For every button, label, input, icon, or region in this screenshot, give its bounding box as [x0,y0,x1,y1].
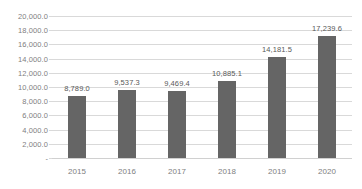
bar-chart: -2,000.04,000.06,000.08,000.010,000.012,… [0,0,362,189]
bar[interactable] [118,90,136,158]
bar[interactable] [318,36,336,158]
bars-layer: 8,789.09,537.39,469.410,885.114,181.517,… [52,16,352,158]
bar-value-label: 9,469.4 [164,79,190,88]
y-axis-tick-label: 4,000.0 [22,125,48,134]
x-axis-category-label: 2016 [118,167,136,176]
y-axis-tick-label: 10,000.0 [18,83,48,92]
x-axis-category-label: 2018 [218,167,236,176]
y-axis-tick-label: 18,000.0 [18,26,48,35]
bar-slot: 9,469.4 [152,16,202,158]
bar-value-label: 9,537.3 [114,78,140,87]
bar-value-label: 8,789.0 [64,84,90,93]
bar-slot: 8,789.0 [52,16,102,158]
y-axis-tick-label: 12,000.0 [18,68,48,77]
bar-value-label: 17,239.6 [312,24,342,33]
x-axis-category-label: 2017 [168,167,186,176]
bar-slot: 17,239.6 [302,16,352,158]
y-axis-tick-label: 2,000.0 [22,139,48,148]
x-axis-category-label: 2019 [268,167,286,176]
y-axis-tick-mark [49,158,52,159]
axis-baseline [52,158,352,159]
x-axis: 201520162017201820192020 [52,160,352,184]
x-axis-category-label: 2015 [68,167,86,176]
bar[interactable] [68,96,86,158]
y-axis-tick-label: 6,000.0 [22,111,48,120]
bar-value-label: 14,181.5 [262,45,292,54]
bar-slot: 9,537.3 [102,16,152,158]
bar-value-label: 10,885.1 [212,69,242,78]
y-axis-tick-label: - [45,154,48,163]
bar[interactable] [268,57,286,158]
y-axis-tick-label: 14,000.0 [18,54,48,63]
bar-slot: 14,181.5 [252,16,302,158]
bar[interactable] [168,91,186,158]
y-axis-tick-label: 16,000.0 [18,40,48,49]
y-axis-tick-label: 8,000.0 [22,97,48,106]
x-axis-category-label: 2020 [318,167,336,176]
y-axis-tick-label: 20,000.0 [18,12,48,21]
bar[interactable] [218,81,236,158]
y-axis: -2,000.04,000.06,000.08,000.010,000.012,… [0,16,48,158]
bar-slot: 10,885.1 [202,16,252,158]
